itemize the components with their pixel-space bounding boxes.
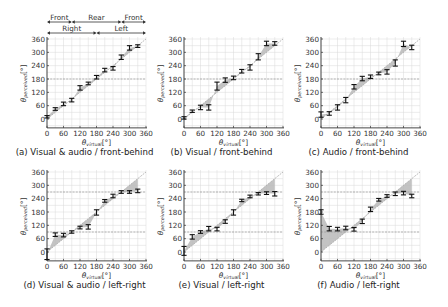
- y-axis-label: θperceived[°]: [293, 197, 303, 235]
- y-tick-label: 300: [31, 181, 45, 190]
- y-tick-label: 120: [168, 88, 182, 97]
- x-tick-label: 0: [319, 129, 324, 138]
- y-axis-label: θperceived[°]: [19, 197, 29, 235]
- y-tick-label: 300: [305, 181, 319, 190]
- y-tick-label: 180: [168, 75, 182, 84]
- x-tick-label: 240: [243, 262, 257, 271]
- x-tick-label: 240: [380, 262, 394, 271]
- x-tick-label: 180: [227, 262, 241, 271]
- region-label: Rear: [88, 13, 104, 22]
- x-tick-label: 240: [106, 262, 120, 271]
- y-axis-label: θperceived[°]: [19, 64, 29, 102]
- x-tick-label: 360: [413, 129, 427, 138]
- y-tick-label: 360: [31, 168, 45, 177]
- y-tick-label: 360: [168, 168, 182, 177]
- panels: 060120180240300360060120180240300360θvir…: [16, 35, 428, 290]
- panel-caption: (b) Visual / front-behind: [171, 147, 273, 157]
- y-tick-label: 60: [173, 234, 183, 243]
- x-tick-label: 60: [333, 262, 343, 271]
- deviation-area: [47, 179, 138, 255]
- y-tick-label: 120: [305, 88, 319, 97]
- x-tick-label: 360: [276, 129, 290, 138]
- data-points: [181, 192, 277, 256]
- x-tick-label: 120: [347, 262, 361, 271]
- y-tick-label: 180: [31, 208, 45, 217]
- y-tick-label: 240: [31, 194, 45, 203]
- y-tick-label: 60: [310, 234, 320, 243]
- x-tick-label: 0: [182, 129, 187, 138]
- region-label: Left: [114, 24, 128, 33]
- x-tick-label: 360: [413, 262, 427, 271]
- y-axis-label: θperceived[°]: [293, 64, 303, 102]
- y-tick-label: 60: [36, 101, 46, 110]
- x-tick-label: 60: [59, 262, 69, 271]
- panel-caption: (d) Visual & audio / left-right: [23, 280, 146, 290]
- panel-caption: (a) Visual & audio / front-behind: [16, 147, 154, 157]
- region-label: Right: [62, 24, 81, 33]
- y-axis-label: θperceived[°]: [156, 64, 166, 102]
- y-tick-label: 240: [168, 194, 182, 203]
- chart-panel-c: 060120180240300360060120180240300360θvir…: [293, 35, 427, 157]
- x-tick-label: 360: [276, 262, 290, 271]
- panel-caption: (f) Audio / left-right: [317, 280, 400, 290]
- y-tick-label: 360: [305, 168, 319, 177]
- x-tick-label: 240: [106, 129, 120, 138]
- y-tick-label: 240: [305, 61, 319, 70]
- x-tick-label: 180: [364, 129, 378, 138]
- x-tick-label: 180: [364, 262, 378, 271]
- y-tick-label: 120: [31, 221, 45, 230]
- x-tick-label: 300: [260, 262, 274, 271]
- x-tick-label: 240: [243, 129, 257, 138]
- y-tick-label: 180: [305, 75, 319, 84]
- x-tick-label: 0: [319, 262, 324, 271]
- x-tick-label: 300: [260, 129, 274, 138]
- x-tick-label: 0: [45, 262, 50, 271]
- x-tick-label: 120: [73, 129, 87, 138]
- x-tick-label: 180: [90, 262, 104, 271]
- x-tick-label: 60: [333, 129, 343, 138]
- y-tick-label: 120: [31, 88, 45, 97]
- x-tick-label: 0: [182, 262, 187, 271]
- chart-panel-d: 060120180240300360060120180240300360θvir…: [19, 168, 153, 290]
- x-tick-label: 60: [196, 262, 206, 271]
- y-tick-label: 240: [168, 61, 182, 70]
- y-tick-label: 360: [305, 35, 319, 44]
- x-tick-label: 60: [59, 129, 69, 138]
- y-tick-label: 300: [31, 48, 45, 57]
- panel-caption: (e) Visual / left-right: [179, 280, 266, 290]
- y-tick-label: 120: [168, 221, 182, 230]
- x-tick-label: 120: [73, 262, 87, 271]
- x-tick-label: 360: [139, 129, 153, 138]
- x-tick-label: 360: [139, 262, 153, 271]
- x-tick-label: 240: [380, 129, 394, 138]
- y-axis-label: θperceived[°]: [156, 197, 166, 235]
- y-tick-label: 120: [305, 221, 319, 230]
- y-tick-label: 180: [31, 75, 45, 84]
- panel-caption: (c) Audio / front-behind: [309, 147, 409, 157]
- y-tick-label: 180: [305, 208, 319, 217]
- deviation-area: [184, 43, 275, 119]
- x-tick-label: 60: [196, 129, 206, 138]
- x-tick-label: 300: [397, 262, 411, 271]
- x-tick-label: 120: [347, 129, 361, 138]
- chart-panel-b: 060120180240300360060120180240300360θvir…: [156, 35, 290, 157]
- y-tick-label: 240: [31, 61, 45, 70]
- x-tick-label: 120: [210, 129, 224, 138]
- chart-panel-f: 060120180240300360060120180240300360θvir…: [293, 168, 427, 290]
- x-tick-label: 0: [45, 129, 50, 138]
- chart-panel-e: 060120180240300360060120180240300360θvir…: [156, 168, 290, 290]
- deviation-area: [321, 44, 412, 119]
- y-tick-label: 60: [36, 234, 46, 243]
- y-tick-label: 300: [168, 181, 182, 190]
- x-tick-label: 300: [123, 129, 137, 138]
- y-tick-label: 360: [168, 35, 182, 44]
- region-label: Front: [50, 13, 68, 22]
- y-tick-label: 240: [305, 194, 319, 203]
- y-tick-label: 360: [31, 35, 45, 44]
- y-tick-label: 300: [305, 48, 319, 57]
- y-tick-label: 0: [314, 115, 319, 124]
- x-tick-label: 180: [227, 129, 241, 138]
- data-points: [44, 189, 140, 259]
- y-tick-label: 180: [168, 208, 182, 217]
- region-labels: FrontRearFrontRightLeft: [47, 13, 146, 35]
